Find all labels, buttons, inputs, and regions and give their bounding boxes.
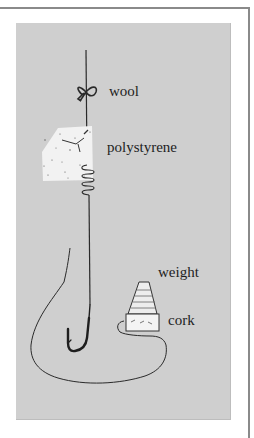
fishing-line-diagram: [0, 0, 254, 438]
cork-block: [126, 314, 159, 331]
label-polystyrene: polystyrene: [107, 140, 177, 155]
polystyrene-block: [42, 126, 93, 181]
label-weight: weight: [158, 265, 199, 280]
label-wool: wool: [109, 84, 139, 99]
label-cork: cork: [168, 313, 195, 328]
weight-cone: [128, 282, 157, 314]
wool-bow-icon: [78, 87, 96, 101]
fish-hook: [68, 305, 90, 351]
